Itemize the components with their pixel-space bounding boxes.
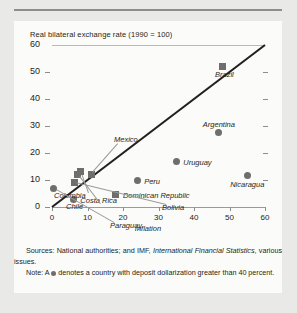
cut-off-caption [14,1,282,8]
leader-line-mexico [92,143,118,172]
point-label-peru: Peru [144,177,160,186]
note-prefix: Note: A [26,268,51,277]
y-tick-mark [45,99,50,100]
data-point-peru[interactable] [134,177,141,184]
point-label-colombia: Colombia [54,191,86,200]
x-tick-label: 40 [184,213,204,222]
data-point-uruguay[interactable] [173,158,180,165]
y-tick-mark [45,126,50,127]
y-tick-label: 30 [20,120,40,130]
x-tick-mark [265,207,266,211]
point-label-paraguay: Paraguay [110,221,142,230]
top-divider-rule [14,9,282,11]
scatter-plot-area: BrazilArgentinaUruguayNicaraguaPeruDomin… [52,45,265,207]
y-tick-mark [45,207,50,208]
x-axis-title: Inflation [14,224,282,233]
figure-panel: Real bilateral exchange rate (1990 = 100… [0,0,297,313]
x-tick-mark [230,207,231,211]
y-tick-label: 0 [20,201,40,211]
y-tick-label: 40 [20,93,40,103]
y-tick-mark [45,72,50,73]
x-tick-label: 10 [78,213,98,222]
figure-notes: Sources: National authorities; and IMF, … [14,246,282,280]
y-tick-mark [45,153,50,154]
y-tick-label: 10 [20,174,40,184]
y-tick-label: 50 [20,66,40,76]
x-tick-label: 50 [220,213,240,222]
sources-prefix: Sources: National authorities; and IMF, [26,246,153,255]
note-suffix: denotes a country with deposit dollariza… [56,268,274,277]
x-tick-mark [123,207,124,211]
y-tick-mark [45,180,50,181]
y-tick-label: 60 [20,39,40,49]
data-point-argentina[interactable] [215,129,222,136]
point-label-nicaragua: Nicaragua [230,180,264,189]
x-tick-mark [159,207,160,211]
data-point-nicaragua[interactable] [244,172,251,179]
x-tick-mark [194,207,195,211]
x-tick-label: 30 [149,213,169,222]
x-tick-label: 60 [255,213,275,222]
point-label-argentina: Argentina [203,120,235,129]
y-tick-label: 20 [20,147,40,157]
sources-note: Sources: National authorities; and IMF, … [14,246,282,267]
x-tick-label: 0 [42,213,62,222]
y-axis-title: Real bilateral exchange rate (1990 = 100… [30,30,172,39]
point-label-brazil: Brazil [215,70,234,79]
data-point-mexico[interactable] [88,171,95,178]
dollarization-note: Note: A denotes a country with deposit d… [14,268,282,279]
point-label-uruguay: Uruguay [183,158,211,167]
sources-italic-title: International Financial Statistics [153,246,255,255]
